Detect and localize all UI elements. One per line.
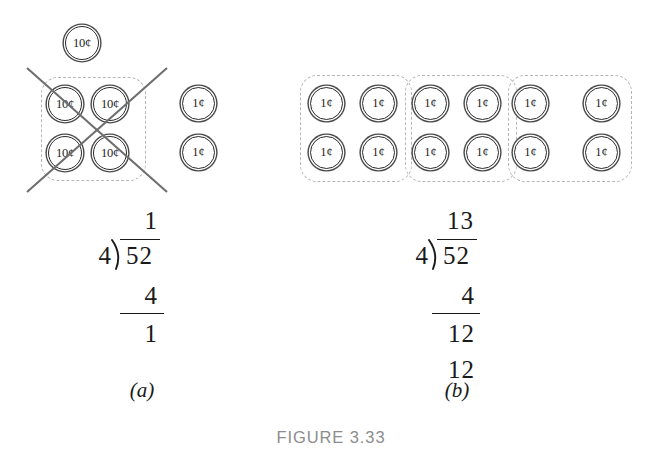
division-a-quotient: 1	[124, 208, 158, 233]
coin-dime-4-label: 10¢	[101, 146, 119, 159]
division-b-vinculum	[437, 239, 477, 240]
coin-penny-g2-4: 1¢	[466, 136, 499, 169]
coin-dime-3: 10¢	[48, 136, 82, 170]
coin-penny-loose-2: 1¢	[182, 136, 215, 169]
coin-penny-g1-1-label: 1¢	[320, 97, 333, 110]
panel-label-b: (b)	[425, 378, 489, 403]
coin-penny-g3-1-label: 1¢	[524, 97, 537, 110]
coin-penny-g2-1-label: 1¢	[424, 97, 437, 110]
figure-caption: FIGURE 3.33	[0, 428, 662, 447]
coin-penny-g2-3-label: 1¢	[424, 146, 437, 159]
division-a-divisor: 4	[89, 243, 111, 268]
coin-penny-g1-2-label: 1¢	[372, 97, 385, 110]
coin-penny-g3-1: 1¢	[514, 87, 547, 120]
coin-penny-g1-4: 1¢	[362, 136, 395, 169]
coin-penny-g1-3: 1¢	[310, 136, 343, 169]
coin-penny-g2-1: 1¢	[414, 87, 447, 120]
division-b-subtraction-rule	[432, 313, 480, 314]
coin-dime-2-label: 10¢	[101, 97, 119, 110]
coin-penny-g2-2: 1¢	[466, 87, 499, 120]
coin-penny-g1-4-label: 1¢	[372, 146, 385, 159]
division-a-step-1: 4	[124, 283, 158, 308]
coin-penny-g1-3-label: 1¢	[320, 146, 333, 159]
coin-dime-4: 10¢	[93, 136, 127, 170]
coin-penny-g3-4-label: 1¢	[595, 146, 608, 159]
division-b-step-2: 12	[434, 321, 475, 346]
division-b-dividend: 52	[443, 243, 470, 268]
coin-dime-leftover-label: 10¢	[73, 36, 91, 49]
division-b-bracket-icon	[428, 239, 441, 270]
coin-penny-g2-4-label: 1¢	[476, 146, 489, 159]
coin-dime-3-label: 10¢	[56, 146, 74, 159]
division-a-dividend: 52	[126, 243, 153, 268]
coin-dime-1: 10¢	[48, 87, 82, 121]
division-a-bracket-icon	[111, 239, 124, 270]
coin-dime-2: 10¢	[93, 87, 127, 121]
division-a-vinculum	[120, 239, 160, 240]
coin-dime-1-label: 10¢	[56, 97, 74, 110]
coin-penny-g3-2-label: 1¢	[595, 97, 608, 110]
division-a-remainder: 1	[124, 321, 158, 346]
coin-penny-loose-1: 1¢	[182, 87, 215, 120]
figure-3-33: 10¢ 10¢ 10¢ 10¢ 10¢ 1¢ 1¢ 1 4 52 4 1 (	[0, 0, 662, 472]
coin-penny-loose-1-label: 1¢	[192, 97, 205, 110]
coin-penny-g3-3-label: 1¢	[524, 146, 537, 159]
division-b-divisor: 4	[406, 243, 428, 268]
coin-dime-leftover: 10¢	[65, 26, 99, 60]
division-b-step-1: 4	[441, 283, 475, 308]
division-a-subtraction-rule	[120, 313, 164, 314]
coin-penny-g2-3: 1¢	[414, 136, 447, 169]
coin-penny-g3-4: 1¢	[585, 136, 618, 169]
coin-penny-g1-2: 1¢	[362, 87, 395, 120]
coin-penny-g3-2: 1¢	[585, 87, 618, 120]
division-b-quotient: 13	[434, 208, 474, 233]
coin-penny-g2-2-label: 1¢	[476, 97, 489, 110]
coin-penny-g1-1: 1¢	[310, 87, 343, 120]
coin-penny-loose-2-label: 1¢	[192, 146, 205, 159]
panel-label-a: (a)	[110, 378, 174, 403]
coin-penny-g3-3: 1¢	[514, 136, 547, 169]
